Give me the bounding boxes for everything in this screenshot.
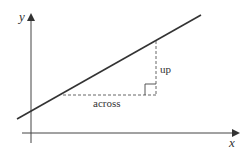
across-label: across (93, 97, 121, 109)
y-axis-label: y (17, 9, 25, 24)
gradient-diagram: y x up across (0, 0, 247, 158)
right-angle-marker (145, 84, 156, 95)
x-axis-label: x (228, 135, 235, 150)
up-label: up (160, 63, 172, 75)
